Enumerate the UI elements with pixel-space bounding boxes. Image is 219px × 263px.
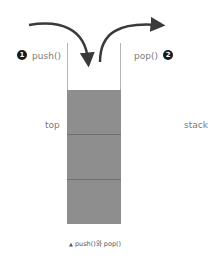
figure-caption: ▲ push()와 pop() [69,238,121,248]
stack-label: stack [184,120,208,130]
stack-divider [67,179,121,180]
top-label: top [45,120,60,130]
push-label: push() [32,51,61,61]
push-label-group: 1 push() [17,44,61,63]
caption-text: push()와 pop() [75,240,121,248]
pop-label: pop() [134,51,158,61]
stack-fill [67,90,121,224]
step-2-badge: 2 [163,50,173,60]
triangle-up-icon: ▲ [69,241,73,247]
stack-divider [67,134,121,135]
pop-label-group: pop() 2 [134,44,173,63]
step-1-badge: 1 [17,50,27,60]
